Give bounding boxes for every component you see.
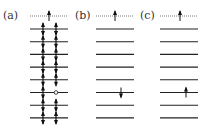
- panel-c: (c): [140, 9, 198, 118]
- up-arrow-head: [54, 73, 58, 78]
- energy-level-diagram: (a) (b) (c): [0, 0, 211, 135]
- panel-label-c: (c): [140, 9, 155, 22]
- up-arrow-head: [41, 73, 45, 78]
- up-arrow-head: [54, 111, 58, 116]
- up-arrow-head: [54, 47, 58, 52]
- up-arrow-head: [41, 86, 45, 91]
- hole-icon: [54, 91, 58, 95]
- spin-up-arrow-icon: [178, 10, 182, 21]
- up-arrow-head: [54, 22, 58, 27]
- up-arrow-head: [54, 98, 58, 103]
- down-arrow-head: [41, 120, 45, 125]
- spin-up-arrow-icon: [113, 10, 117, 21]
- arrow-head: [119, 94, 123, 99]
- up-arrow-head: [41, 98, 45, 103]
- up-arrow-head: [41, 60, 45, 65]
- up-arrow-head: [41, 111, 45, 116]
- spin-up-arrow-icon: [47, 10, 51, 21]
- arrow-head: [113, 10, 117, 15]
- up-arrow-head: [54, 35, 58, 40]
- up-arrow-head: [41, 22, 45, 27]
- up-arrow-head: [41, 35, 45, 40]
- up-arrow-head: [41, 47, 45, 52]
- arrow-head: [178, 10, 182, 15]
- arrow-head: [47, 10, 51, 15]
- panel-label-b: (b): [75, 9, 91, 22]
- panel-a: (a): [3, 9, 68, 125]
- panel-b: (b): [75, 9, 134, 118]
- panel-label-a: (a): [3, 9, 18, 22]
- up-arrow-head: [54, 60, 58, 65]
- down-arrow-head: [54, 120, 58, 125]
- down-arrow-head: [54, 82, 58, 87]
- arrow-head: [184, 87, 188, 92]
